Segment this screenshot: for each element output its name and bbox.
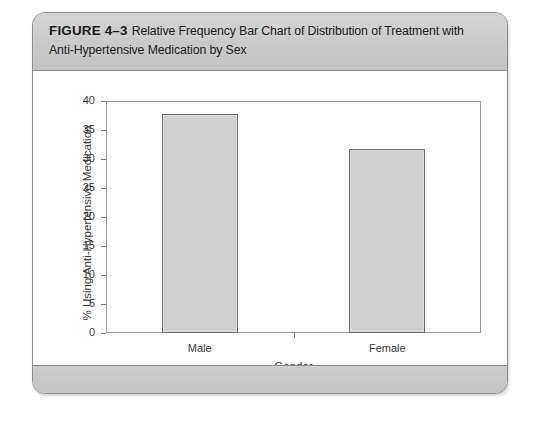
- y-axis-tick: [101, 130, 106, 131]
- bar: [349, 149, 425, 333]
- x-axis-tick-label: Female: [327, 342, 447, 354]
- y-axis-tick-label: 30: [33, 152, 95, 164]
- x-axis-tick-label: Male: [140, 342, 260, 354]
- figure-caption-band: FIGURE 4–3Relative Frequency Bar Chart o…: [33, 13, 507, 71]
- figure-footer-band: [33, 365, 507, 393]
- y-axis-tick: [101, 188, 106, 189]
- y-axis-tick-label: 10: [33, 268, 95, 280]
- y-axis-tick: [101, 217, 106, 218]
- y-axis-tick: [101, 333, 106, 334]
- figure-panel: FIGURE 4–3Relative Frequency Bar Chart o…: [32, 12, 508, 394]
- y-axis-tick-label: 35: [33, 123, 95, 135]
- x-axis-tick: [294, 333, 295, 338]
- y-axis-tick: [101, 304, 106, 305]
- figure-number-label: FIGURE 4–3: [49, 23, 128, 38]
- y-axis-tick: [101, 275, 106, 276]
- y-axis-tick: [101, 246, 106, 247]
- bar: [162, 114, 238, 333]
- y-axis-tick-label: 0: [33, 326, 95, 338]
- y-axis-tick-label: 40: [33, 94, 95, 106]
- figure-caption: FIGURE 4–3Relative Frequency Bar Chart o…: [49, 21, 491, 60]
- y-axis-tick: [101, 101, 106, 102]
- y-axis-tick-label: 5: [33, 297, 95, 309]
- y-axis-tick-label: 20: [33, 210, 95, 222]
- y-axis-tick-label: 15: [33, 239, 95, 251]
- bar-chart: % Using Anti-Hypertensive Medication Gen…: [33, 72, 507, 368]
- y-axis-tick-label: 25: [33, 181, 95, 193]
- y-axis-tick: [101, 159, 106, 160]
